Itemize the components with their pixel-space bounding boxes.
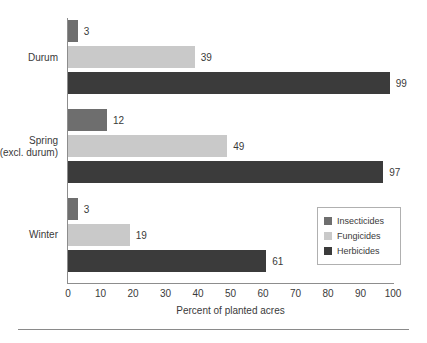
bar-row: 99 (68, 72, 393, 94)
category-label-line: Winter (29, 229, 58, 241)
x-tick-label: 20 (127, 288, 138, 299)
bar-value-winter-herbicides: 61 (266, 256, 283, 267)
bar-row: 97 (68, 161, 393, 183)
chart-figure: Durum Spring (excl. durum) Winter 3 39 9… (0, 0, 427, 343)
x-tick-label: 0 (65, 288, 71, 299)
x-tick-label: 100 (385, 288, 402, 299)
bar-winter-fungicides[interactable] (68, 224, 130, 246)
bar-spring-insecticides[interactable] (68, 109, 107, 131)
bar-value-spring-herbicides: 97 (383, 167, 400, 178)
legend-swatch-icon (324, 217, 332, 225)
x-tick-label: 90 (355, 288, 366, 299)
x-axis-title: Percent of planted acres (68, 305, 393, 316)
bar-value-spring-fungicides: 49 (227, 141, 244, 152)
bar-value-durum-herbicides: 99 (390, 78, 407, 89)
legend-label: Fungicides (337, 231, 381, 241)
legend-item-fungicides[interactable]: Fungicides (324, 229, 394, 243)
category-label-spring: Spring (excl. durum) (0, 135, 58, 159)
category-label-line: Spring (0, 135, 58, 147)
bottom-divider (18, 329, 409, 330)
legend-swatch-icon (324, 232, 332, 240)
bar-value-winter-fungicides: 19 (130, 230, 147, 241)
legend-label: Insecticides (337, 216, 384, 226)
bar-row: 49 (68, 135, 393, 157)
legend-swatch-icon (324, 247, 332, 255)
legend-item-insecticides[interactable]: Insecticides (324, 214, 394, 228)
bar-value-durum-insecticides: 3 (78, 26, 90, 37)
bar-value-spring-insecticides: 12 (107, 115, 124, 126)
x-tick-label: 70 (290, 288, 301, 299)
bar-value-durum-fungicides: 39 (195, 52, 212, 63)
bar-durum-fungicides[interactable] (68, 46, 195, 68)
x-tick-label: 30 (160, 288, 171, 299)
bar-value-winter-insecticides: 3 (78, 204, 90, 215)
bar-durum-herbicides[interactable] (68, 72, 390, 94)
bar-spring-herbicides[interactable] (68, 161, 383, 183)
bar-winter-herbicides[interactable] (68, 250, 266, 272)
category-label-durum: Durum (28, 52, 58, 64)
x-axis-line (67, 283, 394, 284)
x-tick-label: 40 (192, 288, 203, 299)
bar-row: 12 (68, 109, 393, 131)
chart-legend: Insecticides Fungicides Herbicides (317, 207, 401, 265)
bar-spring-fungicides[interactable] (68, 135, 227, 157)
bar-winter-insecticides[interactable] (68, 198, 78, 220)
category-label-line: Durum (28, 52, 58, 64)
category-label-line: (excl. durum) (0, 147, 58, 159)
category-label-winter: Winter (29, 229, 58, 241)
legend-label: Herbicides (337, 246, 380, 256)
bar-durum-insecticides[interactable] (68, 20, 78, 42)
bar-row: 39 (68, 46, 393, 68)
bar-row: 3 (68, 20, 393, 42)
x-tick-label: 10 (95, 288, 106, 299)
x-tick-label: 60 (257, 288, 268, 299)
x-tick-label: 80 (322, 288, 333, 299)
bar-group-spring: 12 49 97 (68, 109, 393, 187)
x-tick-label: 50 (225, 288, 236, 299)
bar-group-durum: 3 39 99 (68, 20, 393, 98)
legend-item-herbicides[interactable]: Herbicides (324, 244, 394, 258)
